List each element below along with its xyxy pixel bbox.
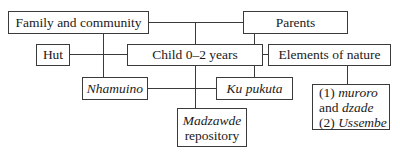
node-label: Child 0–2 years bbox=[152, 48, 238, 62]
nature-item-1-cont: and dzade bbox=[319, 100, 373, 115]
node-label: Nhamuino bbox=[87, 82, 143, 96]
item-conjunction: and bbox=[319, 100, 342, 115]
node-ku-pukuta: Ku pukuta bbox=[216, 77, 293, 100]
node-label: Parents bbox=[276, 16, 316, 30]
node-family-and-community: Family and community bbox=[8, 11, 149, 34]
node-label-line1: Madzawde bbox=[183, 113, 242, 128]
item-number: (1) bbox=[319, 85, 338, 100]
diagram-canvas: Family and community Parents Hut Child 0… bbox=[0, 0, 400, 154]
nature-item-1: (1) muroro bbox=[319, 85, 378, 100]
node-child-0-2-years: Child 0–2 years bbox=[127, 44, 263, 66]
item-term: Ussembe bbox=[338, 115, 387, 130]
item-term: dzade bbox=[342, 100, 374, 115]
node-label: Hut bbox=[43, 48, 63, 62]
node-label: Ku pukuta bbox=[227, 82, 283, 96]
node-hut: Hut bbox=[36, 44, 70, 66]
nature-item-2: (2) Ussembe bbox=[319, 115, 387, 130]
node-madzawde-repository: Madzawde repository bbox=[177, 108, 247, 147]
node-nature-items: (1) muroro and dzade (2) Ussembe bbox=[312, 84, 390, 130]
node-label: Elements of nature bbox=[279, 48, 381, 62]
node-nhamuino: Nhamuino bbox=[82, 77, 148, 100]
item-term: muroro bbox=[338, 85, 378, 100]
node-parents: Parents bbox=[243, 11, 348, 34]
item-number: (2) bbox=[319, 115, 338, 130]
node-label: Family and community bbox=[16, 16, 142, 30]
node-elements-of-nature: Elements of nature bbox=[268, 44, 391, 66]
node-label-line2: repository bbox=[185, 128, 240, 143]
